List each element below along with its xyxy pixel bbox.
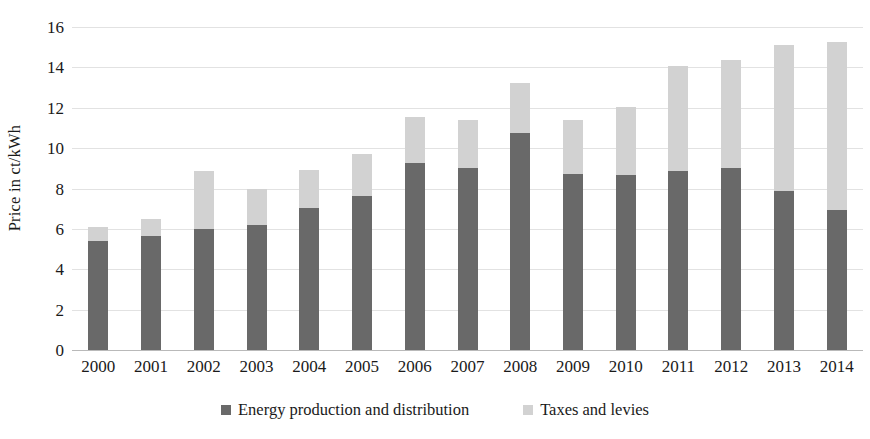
gridline <box>72 350 863 351</box>
legend-swatch-icon <box>523 405 533 415</box>
y-axis-tick-label: 14 <box>24 59 64 76</box>
bar-segment-taxes-and-levies[interactable] <box>774 45 794 190</box>
bar-segment-energy-production-and-distribution[interactable] <box>616 175 636 350</box>
legend-item[interactable]: Taxes and levies <box>523 402 649 419</box>
bar-segment-energy-production-and-distribution[interactable] <box>510 133 530 350</box>
bar-group[interactable] <box>774 45 794 350</box>
bar-segment-energy-production-and-distribution[interactable] <box>458 168 478 350</box>
bar-segment-taxes-and-levies[interactable] <box>247 189 267 225</box>
plot-area <box>72 27 863 350</box>
bar-segment-taxes-and-levies[interactable] <box>141 219 161 236</box>
x-axis-tick-label: 2007 <box>441 356 494 378</box>
y-axis-tick-label: 2 <box>24 301 64 318</box>
bar-group[interactable] <box>563 120 583 350</box>
bar-segment-energy-production-and-distribution[interactable] <box>563 174 583 350</box>
bar-segment-energy-production-and-distribution[interactable] <box>668 171 688 350</box>
bar-segment-energy-production-and-distribution[interactable] <box>247 225 267 350</box>
y-axis-tick-label: 12 <box>24 99 64 116</box>
bar-segment-taxes-and-levies[interactable] <box>827 42 847 210</box>
bar-segment-taxes-and-levies[interactable] <box>88 227 108 241</box>
y-axis-tick-label: 0 <box>24 342 64 359</box>
bar-segment-taxes-and-levies[interactable] <box>299 170 319 207</box>
bars-layer <box>72 27 863 350</box>
x-axis-tick-label: 2004 <box>283 356 336 378</box>
bar-segment-energy-production-and-distribution[interactable] <box>141 236 161 350</box>
legend-label: Energy production and distribution <box>238 402 469 419</box>
y-axis-tick-labels: 0246810121416 <box>20 27 64 350</box>
bar-group[interactable] <box>721 60 741 350</box>
bar-segment-taxes-and-levies[interactable] <box>721 60 741 168</box>
bar-group[interactable] <box>827 42 847 350</box>
bar-segment-energy-production-and-distribution[interactable] <box>352 196 372 350</box>
x-axis-tick-label: 2000 <box>72 356 125 378</box>
bar-group[interactable] <box>141 219 161 350</box>
x-axis-tick-label: 2008 <box>494 356 547 378</box>
legend-item[interactable]: Energy production and distribution <box>221 402 469 419</box>
x-axis-tick-label: 2012 <box>705 356 758 378</box>
x-axis-tick-label: 2003 <box>230 356 283 378</box>
x-axis-tick-label: 2011 <box>652 356 705 378</box>
y-axis-tick-label: 8 <box>24 180 64 197</box>
x-axis-tick-labels: 2000200120022003200420052006200720082009… <box>72 356 863 382</box>
bar-segment-taxes-and-levies[interactable] <box>563 120 583 175</box>
bar-group[interactable] <box>668 66 688 350</box>
x-axis-tick-label: 2010 <box>599 356 652 378</box>
bar-segment-energy-production-and-distribution[interactable] <box>774 191 794 350</box>
bar-segment-taxes-and-levies[interactable] <box>668 66 688 171</box>
bar-segment-taxes-and-levies[interactable] <box>510 83 530 133</box>
bar-group[interactable] <box>405 117 425 350</box>
bar-segment-energy-production-and-distribution[interactable] <box>299 208 319 350</box>
bar-segment-energy-production-and-distribution[interactable] <box>827 210 847 350</box>
x-axis-tick-label: 2001 <box>125 356 178 378</box>
bar-group[interactable] <box>194 171 214 350</box>
bar-group[interactable] <box>88 227 108 350</box>
bar-segment-taxes-and-levies[interactable] <box>194 171 214 229</box>
bar-segment-taxes-and-levies[interactable] <box>352 154 372 195</box>
bar-segment-taxes-and-levies[interactable] <box>458 120 478 168</box>
bar-segment-energy-production-and-distribution[interactable] <box>405 163 425 350</box>
bar-group[interactable] <box>510 83 530 350</box>
x-axis-tick-label: 2013 <box>758 356 811 378</box>
y-axis-tick-label: 4 <box>24 261 64 278</box>
bar-group[interactable] <box>616 107 636 350</box>
y-axis-tick-label: 16 <box>24 19 64 36</box>
bar-segment-taxes-and-levies[interactable] <box>405 117 425 163</box>
bar-group[interactable] <box>352 154 372 350</box>
x-axis-tick-label: 2005 <box>336 356 389 378</box>
legend-label: Taxes and levies <box>540 402 649 419</box>
bar-group[interactable] <box>247 189 267 350</box>
bar-segment-energy-production-and-distribution[interactable] <box>721 168 741 350</box>
x-axis-tick-label: 2002 <box>177 356 230 378</box>
bar-segment-energy-production-and-distribution[interactable] <box>88 241 108 350</box>
y-axis-tick-label: 10 <box>24 140 64 157</box>
legend-swatch-icon <box>221 405 231 415</box>
bar-group[interactable] <box>458 120 478 350</box>
x-axis-tick-label: 2014 <box>810 356 863 378</box>
bar-segment-taxes-and-levies[interactable] <box>616 107 636 176</box>
stacked-bar-chart: Price in ct/kWh 0246810121416 2000200120… <box>0 0 870 439</box>
y-axis-tick-label: 6 <box>24 220 64 237</box>
chart-legend: Energy production and distributionTaxes … <box>0 396 870 424</box>
bar-segment-energy-production-and-distribution[interactable] <box>194 229 214 350</box>
bar-group[interactable] <box>299 170 319 350</box>
x-axis-tick-label: 2006 <box>388 356 441 378</box>
x-axis-tick-label: 2009 <box>547 356 600 378</box>
